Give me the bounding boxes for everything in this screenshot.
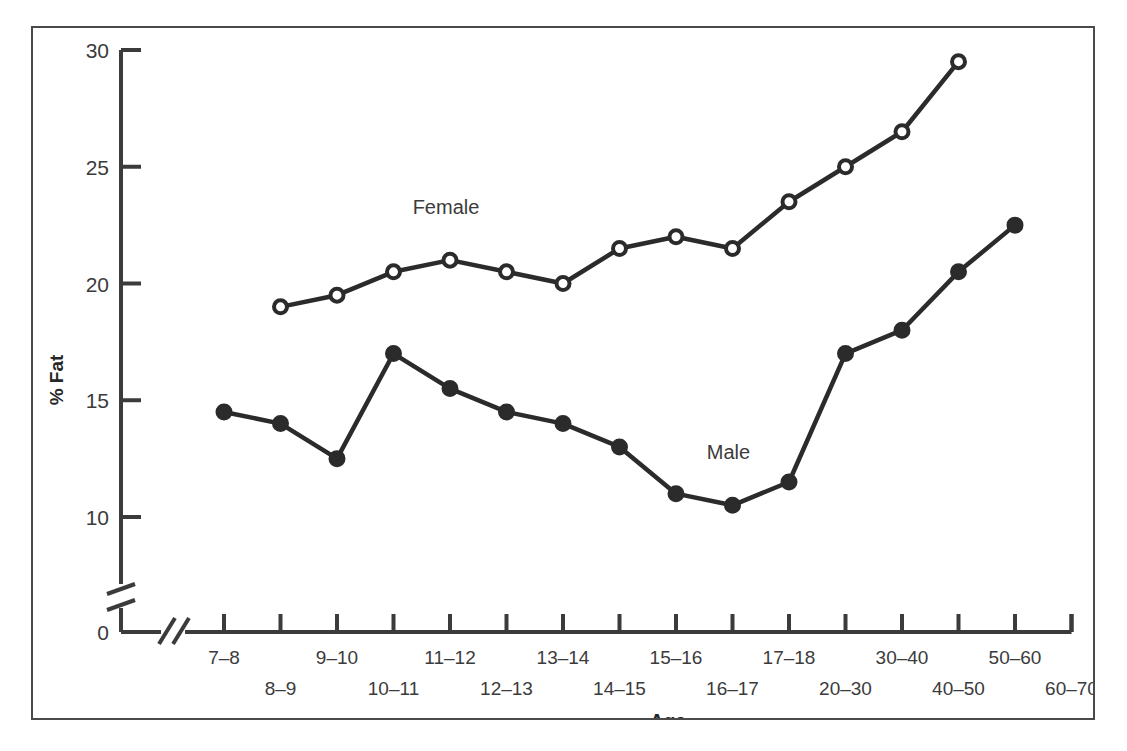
x-tick-label: 20–30 (819, 678, 872, 699)
data-point-male[interactable] (669, 486, 684, 501)
data-point-female[interactable] (444, 254, 457, 267)
x-axis-break-mark (159, 618, 175, 644)
y-axis-title: % Fat (46, 354, 67, 405)
data-point-female[interactable] (274, 300, 287, 313)
data-point-male[interactable] (838, 346, 853, 361)
x-tick-label: 50–60 (989, 647, 1042, 668)
x-tick-label: 60–70 (1045, 678, 1093, 699)
x-tick-label: 7–8 (208, 647, 240, 668)
data-point-male[interactable] (951, 264, 966, 279)
data-point-male[interactable] (895, 323, 910, 338)
series-layer (217, 55, 1023, 513)
y-tick-label: 25 (86, 156, 109, 179)
y-tick-label: 10 (86, 506, 109, 529)
data-point-male[interactable] (273, 416, 288, 431)
data-point-male[interactable] (612, 439, 627, 454)
series-label-female: Female (413, 196, 480, 218)
data-point-female[interactable] (783, 195, 796, 208)
data-point-male[interactable] (330, 451, 345, 466)
x-tick-label: 8–9 (265, 678, 297, 699)
data-point-female[interactable] (613, 242, 626, 255)
data-point-male[interactable] (443, 381, 458, 396)
data-point-male[interactable] (217, 404, 232, 419)
data-point-female[interactable] (952, 55, 965, 68)
figure-root: 010152025307–88–99–1010–1111–1212–1313–1… (0, 0, 1127, 751)
x-tick-label: 15–16 (650, 647, 703, 668)
series-line-female (281, 62, 959, 307)
x-tick-label: 9–10 (316, 647, 358, 668)
y-tick-label: 20 (86, 273, 109, 296)
data-point-female[interactable] (387, 265, 400, 278)
x-tick-label: 13–14 (537, 647, 590, 668)
data-point-male[interactable] (782, 474, 797, 489)
x-tick-label: 16–17 (706, 678, 759, 699)
data-point-female[interactable] (331, 289, 344, 302)
percent-fat-by-age-line-chart: 010152025307–88–99–1010–1111–1212–1313–1… (33, 28, 1093, 718)
data-point-male[interactable] (725, 498, 740, 513)
data-point-female[interactable] (896, 125, 909, 138)
data-point-male[interactable] (386, 346, 401, 361)
y-axis-break-mark (107, 584, 135, 594)
data-point-male[interactable] (499, 404, 514, 419)
series-label-male: Male (707, 441, 750, 463)
x-tick-label: 30–40 (876, 647, 929, 668)
x-tick-label: 10–11 (368, 678, 419, 699)
data-point-male[interactable] (556, 416, 571, 431)
data-point-female[interactable] (670, 230, 683, 243)
x-axis-title: Age (650, 710, 686, 718)
labels-layer: 010152025307–88–99–1010–1111–1212–1313–1… (46, 39, 1093, 718)
x-tick-label: 14–15 (593, 678, 646, 699)
x-tick-label: 11–12 (424, 647, 475, 668)
data-point-female[interactable] (726, 242, 739, 255)
x-tick-label: 17–18 (763, 647, 816, 668)
y-tick-label: 15 (86, 389, 109, 412)
x-tick-label: 40–50 (932, 678, 985, 699)
figure-frame: 010152025307–88–99–1010–1111–1212–1313–1… (31, 26, 1095, 720)
y-tick-label: 0 (97, 621, 109, 644)
data-point-male[interactable] (1008, 218, 1023, 233)
axes-layer (107, 50, 1072, 644)
data-point-female[interactable] (500, 265, 513, 278)
data-point-female[interactable] (557, 277, 570, 290)
x-tick-label: 12–13 (480, 678, 533, 699)
data-point-female[interactable] (839, 160, 852, 173)
y-tick-label: 30 (86, 39, 109, 62)
